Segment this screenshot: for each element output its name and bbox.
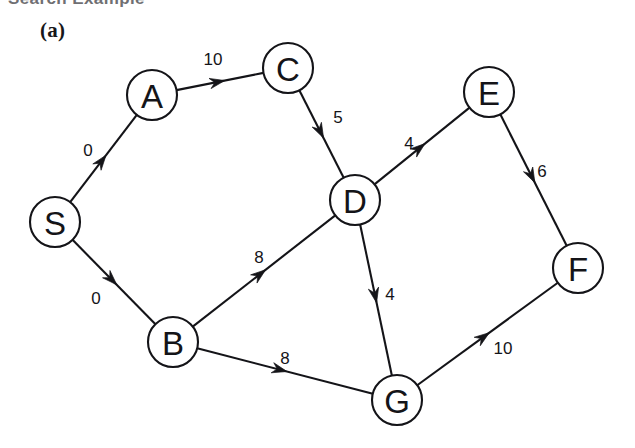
graph-node-C[interactable]: C (263, 43, 313, 93)
edge-weight-C-D: 5 (333, 108, 342, 127)
edge-weight-S-B: 0 (91, 289, 100, 308)
graph-canvas: 001058844610 SABCDEFG (0, 0, 635, 448)
graph-edge-A-C (177, 73, 264, 90)
node-label-G: G (384, 383, 410, 420)
edge-weight-D-G: 4 (385, 285, 394, 304)
edge-weight-G-F: 10 (494, 339, 513, 358)
edge-weight-B-G: 8 (280, 349, 289, 368)
edge-weight-E-F: 6 (537, 162, 546, 181)
node-label-B: B (162, 325, 184, 362)
graph-edge-G-F (417, 283, 558, 386)
edges-layer (70, 73, 567, 394)
node-label-D: D (343, 183, 367, 220)
node-label-C: C (276, 51, 300, 88)
edge-weight-S-A: 0 (83, 141, 92, 160)
edge-arrowhead-S-A (93, 155, 106, 170)
graph-edge-B-D (193, 215, 336, 326)
edge-arrowhead-B-D (251, 270, 266, 283)
edge-arrowhead-G-F (474, 333, 489, 346)
graph-edge-S-A (70, 115, 137, 202)
node-label-A: A (141, 78, 163, 115)
edge-weight-D-E: 4 (404, 134, 413, 153)
nodes-layer: SABCDEFG (30, 43, 603, 425)
graph-node-S[interactable]: S (30, 197, 80, 247)
node-label-F: F (568, 251, 588, 288)
graph-edge-C-D (299, 90, 343, 177)
graph-node-D[interactable]: D (330, 175, 380, 225)
graph-node-B[interactable]: B (148, 317, 198, 367)
graph-node-A[interactable]: A (127, 70, 177, 120)
graph-edge-D-E (374, 108, 469, 185)
figure-root: Search Example (a) 001058844610 SABCDEFG (0, 0, 635, 448)
graph-node-F[interactable]: F (553, 243, 603, 293)
graph-edge-S-B (73, 240, 156, 324)
edge-weight-B-D: 8 (254, 248, 263, 267)
edge-weight-A-C: 10 (204, 50, 223, 69)
graph-edge-E-F (500, 114, 566, 245)
node-label-S: S (44, 205, 66, 242)
node-label-E: E (478, 75, 500, 112)
graph-node-E[interactable]: E (464, 67, 514, 117)
graph-node-G[interactable]: G (372, 375, 422, 425)
